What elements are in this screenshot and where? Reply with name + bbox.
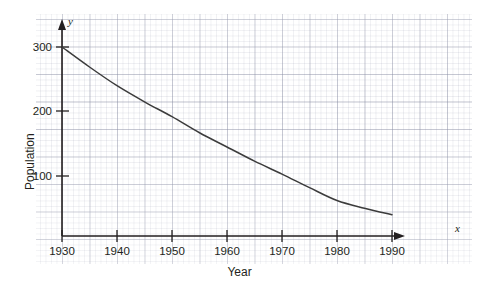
y-axis-title: Population [23, 70, 37, 190]
x-tick-label-1990: 1990 [367, 245, 417, 257]
x-tick-label-1970: 1970 [257, 245, 307, 257]
x-axis [62, 232, 405, 240]
y-axis [58, 19, 66, 236]
x-axis-title: Year [0, 265, 479, 279]
x-tick-label-1980: 1980 [312, 245, 362, 257]
x-tick-label-1960: 1960 [202, 245, 252, 257]
y-axis-variable-label: y [68, 15, 73, 27]
x-tick-label-1940: 1940 [92, 245, 142, 257]
y-tick-label-300: 300 [14, 41, 52, 53]
x-axis-variable-label: x [455, 222, 460, 234]
chart-figure: 300 200 100 1930 1940 1950 1960 1970 198… [0, 0, 479, 292]
population-curve [62, 47, 392, 215]
x-tick-label-1950: 1950 [147, 245, 197, 257]
x-tick-label-1930: 1930 [37, 245, 87, 257]
